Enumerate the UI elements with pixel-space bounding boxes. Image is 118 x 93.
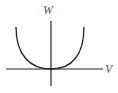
u-curve xyxy=(16,27,84,69)
x-axis-label: V xyxy=(105,63,112,75)
y-axis-label: W xyxy=(43,4,53,16)
plot-svg xyxy=(0,0,118,93)
diagram-canvas: W V xyxy=(0,0,118,93)
